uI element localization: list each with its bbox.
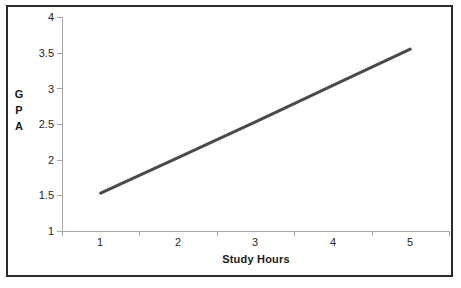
- y-tick-label-1: 1: [24, 225, 54, 237]
- x-tick-mark-1: [139, 231, 140, 236]
- y-tick-label-2-5: 2.5: [24, 118, 54, 130]
- x-tick-label-4: 4: [313, 236, 353, 249]
- gpa-line-series: [62, 17, 449, 231]
- x-tick-label-3: 3: [235, 236, 275, 249]
- x-tick-mark-2: [217, 231, 218, 236]
- y-tick-label-2: 2: [24, 154, 54, 166]
- x-tick-mark-0: [62, 231, 63, 236]
- x-tick-mark-3: [294, 231, 295, 236]
- x-axis-title: Study Hours: [62, 253, 450, 265]
- y-axis-tick-labels: 4 3.5 3 2.5 2 1.5 1: [20, 0, 54, 288]
- plot-area: [62, 17, 449, 231]
- x-tick-label-2: 2: [158, 236, 198, 249]
- x-tick-mark-4: [372, 231, 373, 236]
- y-tick-label-3: 3: [24, 83, 54, 95]
- x-tick-label-1: 1: [80, 236, 120, 249]
- chart-figure: G P A 4 3.5 3 2.5 2 1.5 1 1 2 3 4 5 Stud…: [0, 0, 461, 288]
- y-tick-label-1-5: 1.5: [24, 189, 54, 201]
- y-tick-label-3-5: 3.5: [24, 47, 54, 59]
- data-line-gpa: [101, 49, 411, 193]
- x-tick-label-5: 5: [390, 236, 430, 249]
- x-axis-line: [62, 231, 450, 232]
- x-tick-mark-5: [449, 231, 450, 236]
- y-tick-label-4: 4: [24, 11, 54, 23]
